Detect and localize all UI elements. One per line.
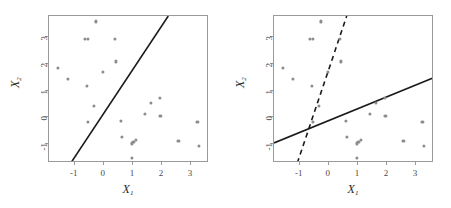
data-point	[143, 112, 146, 115]
x-axis-tick-label: 3	[413, 168, 418, 178]
x-axis-title-text: X	[348, 182, 355, 196]
x-axis-tick	[74, 161, 75, 165]
data-point	[94, 20, 97, 23]
y-axis-tick-label: 2	[263, 63, 273, 68]
data-points-left	[49, 16, 207, 161]
x-axis-tick-label: 2	[384, 168, 389, 178]
data-point	[312, 120, 315, 123]
data-point	[87, 120, 90, 123]
y-axis-title-text: X	[233, 81, 247, 88]
data-point	[374, 101, 377, 104]
data-point	[311, 37, 314, 40]
figure-two-scatter-panels: -10123 -10123 X2 X1 -10123 -10123 X2	[0, 0, 451, 208]
data-point	[196, 120, 199, 123]
x-axis-tick-label: 2	[159, 168, 164, 178]
data-point	[339, 60, 342, 63]
data-point	[119, 119, 122, 122]
data-point	[326, 70, 329, 73]
data-point	[159, 114, 162, 117]
data-point	[120, 135, 123, 138]
y-axis-tick-label: 2	[38, 63, 48, 68]
data-point	[368, 112, 371, 115]
y-axis-title-sub: 2	[15, 77, 23, 81]
data-point	[291, 77, 294, 80]
data-point	[177, 139, 180, 142]
data-point	[158, 96, 161, 99]
data-point	[86, 37, 89, 40]
data-point	[281, 66, 284, 69]
data-point	[114, 60, 117, 63]
data-point	[135, 139, 138, 142]
data-point	[56, 66, 59, 69]
x-axis-title-sub: 1	[130, 189, 134, 197]
y-axis-tick-label: 3	[263, 36, 273, 41]
y-axis-tick-label: 1	[263, 90, 273, 95]
data-point	[384, 114, 387, 117]
y-axis-tick-label: -1	[263, 143, 273, 151]
data-point	[149, 101, 152, 104]
x-axis-tick-label: 1	[355, 168, 360, 178]
data-point	[130, 156, 133, 159]
x-axis-title-right: X1	[273, 182, 433, 197]
x-axis-tick-label: -1	[295, 168, 303, 178]
data-point	[421, 120, 424, 123]
data-point	[422, 144, 425, 147]
panel-left: -10123 -10123 X2 X1	[0, 0, 226, 208]
data-point	[66, 77, 69, 80]
x-axis-tick	[132, 161, 133, 165]
data-point	[113, 37, 116, 40]
data-point	[197, 144, 200, 147]
x-axis-tick	[103, 161, 104, 165]
y-axis-title-text: X	[8, 81, 22, 88]
data-point	[319, 20, 322, 23]
y-axis-tick-label: 0	[38, 116, 48, 121]
x-axis-tick-label: 0	[101, 168, 106, 178]
data-point	[101, 70, 104, 73]
x-axis-tick	[386, 161, 387, 165]
x-axis-tick-label: 0	[326, 168, 331, 178]
x-axis-title-left: X1	[48, 182, 208, 197]
data-point	[85, 85, 88, 88]
y-axis-tick-label: 0	[263, 116, 273, 121]
panel-right: -10123 -10123 X2 X1	[225, 0, 451, 208]
data-point	[383, 96, 386, 99]
data-point	[360, 139, 363, 142]
x-axis-tick	[415, 161, 416, 165]
y-axis-tick-label: 3	[38, 36, 48, 41]
data-point	[317, 104, 320, 107]
data-point	[92, 104, 95, 107]
y-axis-title-left: X2	[8, 77, 23, 88]
y-axis-title-right: X2	[233, 77, 248, 88]
x-axis-tick-label: 1	[130, 168, 135, 178]
data-point	[338, 37, 341, 40]
data-point	[355, 156, 358, 159]
y-axis-tick-label: 1	[38, 90, 48, 95]
data-point	[345, 135, 348, 138]
x-axis-tick	[299, 161, 300, 165]
y-axis-title-sub: 2	[240, 77, 248, 81]
data-point	[402, 139, 405, 142]
plot-area-right: -10123 -10123	[273, 15, 433, 162]
x-axis-tick	[161, 161, 162, 165]
x-axis-tick-label: 3	[188, 168, 193, 178]
data-points-right	[274, 16, 432, 161]
x-axis-tick-label: -1	[70, 168, 78, 178]
x-axis-tick	[190, 161, 191, 165]
x-axis-tick	[328, 161, 329, 165]
data-point	[344, 119, 347, 122]
x-axis-tick	[357, 161, 358, 165]
y-axis-tick-label: -1	[38, 143, 48, 151]
plot-area-left: -10123 -10123	[48, 15, 208, 162]
x-axis-title-text: X	[123, 182, 130, 196]
x-axis-title-sub: 1	[355, 189, 359, 197]
data-point	[310, 85, 313, 88]
